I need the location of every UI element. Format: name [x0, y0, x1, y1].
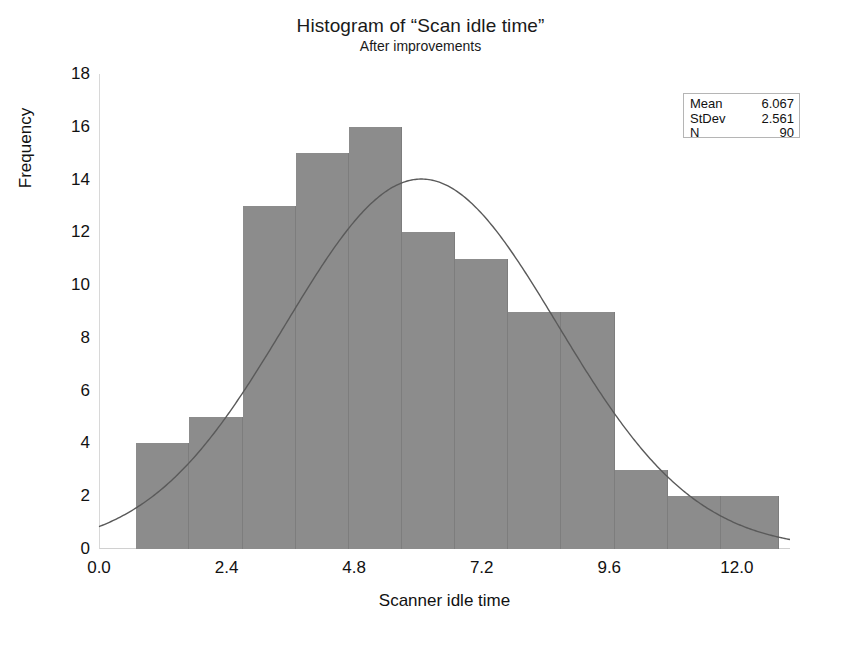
stat-label-n: N: [690, 126, 699, 141]
x-axis-label: Scanner idle time: [99, 591, 790, 611]
stat-row-n: N 90: [690, 126, 794, 141]
stat-value-n: 90: [780, 126, 794, 141]
stat-value-stdev: 2.561: [761, 112, 794, 127]
stat-label-stdev: StDev: [690, 112, 725, 127]
plot-area: 024681012141618 0.02.44.87.29.612.0 Freq…: [0, 0, 841, 645]
stat-label-mean: Mean: [690, 97, 723, 112]
statistics-box: Mean 6.067 StDev 2.561 N 90: [683, 93, 800, 138]
stat-value-mean: 6.067: [761, 97, 794, 112]
stat-row-mean: Mean 6.067: [690, 97, 794, 112]
histogram-chart: Histogram of “Scan idle time” After impr…: [0, 0, 841, 645]
y-axis-label: Frequency: [16, 58, 36, 238]
stat-row-stdev: StDev 2.561: [690, 112, 794, 127]
